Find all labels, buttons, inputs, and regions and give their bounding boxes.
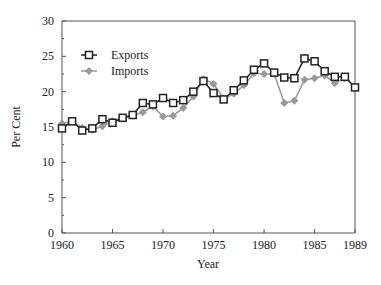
y-axis-label: Per Cent <box>9 106 23 148</box>
data-point <box>291 75 298 82</box>
data-point <box>311 58 318 65</box>
data-point <box>300 76 308 84</box>
x-tick-label: 1960 <box>50 238 74 252</box>
data-point <box>170 99 177 106</box>
data-point <box>281 74 288 81</box>
data-point <box>240 77 247 84</box>
data-point <box>139 99 146 106</box>
x-tick-label: 1980 <box>252 238 276 252</box>
data-point <box>99 116 106 123</box>
legend-label-exports: Exports <box>111 48 149 62</box>
data-point <box>220 96 227 103</box>
data-point <box>261 60 268 67</box>
x-axis-ticks: 1960196519701975198019851989 <box>50 229 367 252</box>
data-point <box>331 73 338 80</box>
x-tick-label: 1970 <box>151 238 175 252</box>
y-tick-label: 25 <box>42 49 54 63</box>
data-point <box>311 74 319 82</box>
data-point <box>341 73 348 80</box>
legend-label-imports: Imports <box>111 64 149 78</box>
data-point <box>230 87 237 94</box>
data-point <box>109 119 116 126</box>
data-point <box>280 99 288 107</box>
data-point <box>98 122 106 130</box>
square-marker-icon <box>86 52 93 59</box>
x-tick-label: 1985 <box>303 238 327 252</box>
data-point <box>271 69 278 76</box>
data-point <box>139 108 147 116</box>
legend-item-exports: Exports <box>81 48 149 62</box>
y-tick-label: 15 <box>42 120 54 134</box>
x-tick-label: 1989 <box>343 238 367 252</box>
data-point <box>149 101 156 108</box>
data-point <box>290 97 298 105</box>
plot-frame <box>62 21 355 233</box>
data-point <box>260 70 268 78</box>
legend-item-imports: Imports <box>81 64 149 78</box>
data-point <box>59 125 66 132</box>
data-point <box>160 95 167 102</box>
y-tick-label: 5 <box>48 191 54 205</box>
y-tick-label: 30 <box>42 14 54 28</box>
data-point <box>79 127 86 134</box>
line-chart: 051015202530 196019651970197519801985198… <box>0 0 381 285</box>
series-imports <box>58 69 359 134</box>
data-point <box>321 68 328 75</box>
legend: Exports Imports <box>81 48 149 78</box>
x-axis-label: Year <box>197 257 219 271</box>
data-point <box>180 97 187 104</box>
data-point <box>129 111 136 118</box>
data-point <box>200 78 207 85</box>
data-point <box>301 55 308 62</box>
data-point <box>190 88 197 95</box>
data-point <box>250 66 257 73</box>
data-point <box>89 125 96 132</box>
data-point <box>119 114 126 121</box>
series-layer <box>58 55 359 134</box>
data-point <box>210 90 217 97</box>
series-exports <box>59 55 359 134</box>
diamond-marker-icon <box>85 67 93 75</box>
data-point <box>352 84 359 91</box>
data-point <box>69 118 76 125</box>
x-tick-label: 1975 <box>202 238 226 252</box>
x-tick-label: 1965 <box>101 238 125 252</box>
y-tick-label: 20 <box>42 85 54 99</box>
y-tick-label: 10 <box>42 155 54 169</box>
